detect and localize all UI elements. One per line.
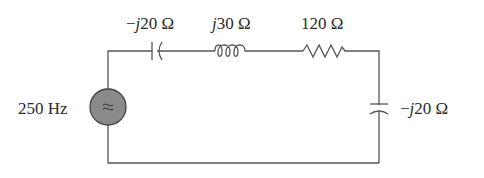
capacitor-2-label: −j20 Ω bbox=[400, 100, 448, 117]
resistor-label: 120 Ω bbox=[301, 15, 343, 32]
ac-source bbox=[90, 89, 126, 125]
capacitor-1-label: −j20 Ω bbox=[126, 15, 174, 32]
inductor-label: j30 Ω bbox=[212, 15, 251, 32]
source-frequency-label: 250 Hz bbox=[18, 100, 68, 117]
wire-bottom bbox=[108, 125, 379, 163]
wire-left-top bbox=[108, 51, 152, 89]
inductor-coil bbox=[215, 45, 250, 56]
resistor-zigzag bbox=[303, 45, 379, 105]
